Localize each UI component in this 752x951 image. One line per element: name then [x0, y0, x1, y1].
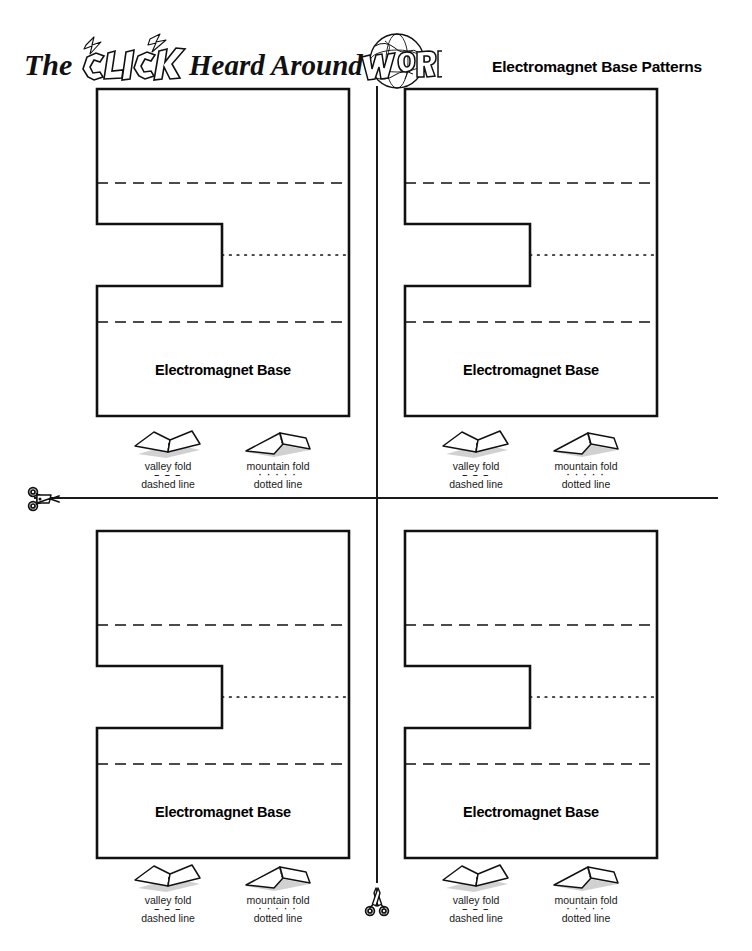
page-title: Electromagnet Base Patterns [452, 58, 742, 76]
legend-valley-linetype: dashed line [122, 478, 214, 490]
legend-mountain-fold: mountain fold · · · · · dotted line [540, 858, 632, 930]
legend-valley-linetype: dashed line [122, 912, 214, 924]
mountain-fold-icon [240, 858, 316, 894]
vertical-cut-line [376, 86, 378, 883]
mountain-fold-icon [548, 858, 624, 894]
base-label: Electromagnet Base [97, 362, 349, 378]
legend-valley-fold: valley fold – – – dashed line [122, 424, 214, 496]
svg-text:The: The [24, 48, 72, 81]
legend-mountain-fold: mountain fold · · · · · dotted line [540, 424, 632, 496]
legend-mountain-linetype: dotted line [540, 912, 632, 924]
mountain-fold-icon [548, 424, 624, 460]
scissors-icon-horizontal [26, 484, 60, 514]
fold-legend-top-left: valley fold – – – dashed line mountain f… [92, 424, 354, 496]
page-root: The Heard Around the [0, 0, 752, 951]
legend-valley-linetype: dashed line [430, 478, 522, 490]
legend-mountain-linetype: dotted line [540, 478, 632, 490]
click-heard-around-the-world-logo: The Heard Around the [22, 33, 442, 89]
legend-valley-fold: valley fold – – – dashed line [430, 424, 522, 496]
fold-legend-bottom-right: valley fold – – – dashed line mountain f… [400, 858, 662, 930]
legend-mountain-linetype: dotted line [232, 912, 324, 924]
scissors-icon-vertical [362, 884, 392, 918]
legend-valley-fold: valley fold – – – dashed line [122, 858, 214, 930]
valley-fold-icon [438, 858, 514, 894]
fold-legend-top-right: valley fold – – – dashed line mountain f… [400, 424, 662, 496]
base-label: Electromagnet Base [405, 362, 657, 378]
legend-mountain-linetype: dotted line [232, 478, 324, 490]
base-label: Electromagnet Base [97, 804, 349, 820]
legend-valley-fold: valley fold – – – dashed line [430, 858, 522, 930]
valley-fold-icon [130, 424, 206, 460]
valley-fold-icon [438, 424, 514, 460]
legend-mountain-fold: mountain fold · · · · · dotted line [232, 424, 324, 496]
legend-valley-linetype: dashed line [430, 912, 522, 924]
base-label: Electromagnet Base [405, 804, 657, 820]
legend-mountain-fold: mountain fold · · · · · dotted line [232, 858, 324, 930]
page-footer [0, 944, 752, 951]
mountain-fold-icon [240, 424, 316, 460]
valley-fold-icon [130, 858, 206, 894]
fold-legend-bottom-left: valley fold – – – dashed line mountain f… [92, 858, 354, 930]
